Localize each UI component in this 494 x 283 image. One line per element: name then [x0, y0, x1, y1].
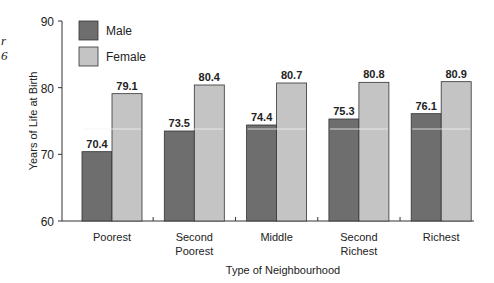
bar-value-label: 80.8 — [363, 68, 384, 80]
margin-mark: r — [1, 33, 7, 48]
bar-value-label: 80.7 — [281, 69, 302, 81]
category-label: Middle — [260, 231, 292, 243]
margin-mark: 6 — [1, 48, 8, 63]
y-ticks: 60708090 — [41, 15, 62, 229]
bar-value-label: 73.5 — [169, 117, 190, 129]
y-tick-label: 60 — [41, 215, 55, 229]
category-label: SecondPoorest — [175, 231, 213, 257]
bar-group: 75.380.8 — [329, 68, 389, 221]
legend-swatch-female — [79, 47, 98, 66]
y-axis-label: Years of Life at Birth — [27, 72, 39, 171]
x-axis-label: Type of Neighbourhood — [226, 264, 340, 276]
bar-value-label: 75.3 — [333, 105, 354, 117]
bar-male — [329, 119, 359, 221]
bar-group: 73.580.4 — [164, 71, 224, 221]
bar-female — [277, 83, 307, 221]
bar-group: 74.480.7 — [247, 69, 307, 221]
category-label: SecondRichest — [340, 231, 377, 257]
category-labels: PoorestSecondPoorestMiddleSecondRichestR… — [93, 231, 460, 257]
category-label: Richest — [423, 231, 460, 243]
bar-value-label: 80.4 — [199, 71, 221, 83]
y-tick-label: 90 — [41, 15, 55, 29]
bar-value-label: 76.1 — [415, 100, 436, 112]
bar-value-label: 70.4 — [86, 138, 108, 150]
bar-male — [411, 114, 441, 221]
legend-label-female: Female — [106, 50, 146, 64]
bar-male — [82, 152, 112, 221]
legend-swatch-male — [79, 21, 98, 40]
legend-label-male: Male — [106, 24, 132, 38]
bar-female — [359, 82, 389, 221]
bar-group: 76.180.9 — [411, 68, 471, 221]
life-expectancy-bar-chart: r 6 60708090 Years of Life at Birth Type… — [0, 0, 494, 283]
y-tick-label: 70 — [41, 148, 55, 162]
y-tick-label: 80 — [41, 82, 55, 96]
bar-group: 70.479.1 — [82, 80, 142, 221]
bar-value-label: 79.1 — [116, 80, 137, 92]
bar-groups: 70.479.173.580.474.480.775.380.876.180.9 — [82, 68, 471, 221]
bar-female — [194, 85, 224, 221]
category-label: Poorest — [93, 231, 131, 243]
legend: Male Female — [79, 21, 146, 66]
bar-value-label: 74.4 — [251, 111, 273, 123]
bar-value-label: 80.9 — [445, 68, 466, 80]
bar-male — [247, 125, 277, 221]
bar-female — [441, 82, 471, 221]
bar-female — [112, 94, 142, 221]
bar-male — [164, 131, 194, 221]
